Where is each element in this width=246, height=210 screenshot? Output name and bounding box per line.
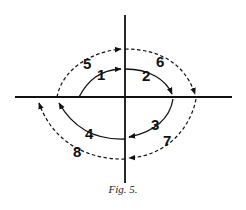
path-label-5: 5 <box>83 55 91 72</box>
path-7-dashed-arrow <box>129 99 196 158</box>
figure-caption: Fig. 5. <box>0 183 246 195</box>
path-label-8: 8 <box>73 143 81 160</box>
figure-5-diagram: 1 2 3 4 5 6 7 8 Fig. 5. <box>0 0 246 210</box>
path-8-dashed-arrow <box>39 103 125 159</box>
path-label-3: 3 <box>151 116 159 133</box>
path-label-1: 1 <box>97 66 105 83</box>
path-label-2: 2 <box>142 67 150 84</box>
diagram-canvas: 1 2 3 4 5 6 7 8 <box>0 0 246 210</box>
path-label-6: 6 <box>156 53 164 70</box>
path-label-7: 7 <box>163 132 171 149</box>
path-label-4: 4 <box>85 125 94 142</box>
